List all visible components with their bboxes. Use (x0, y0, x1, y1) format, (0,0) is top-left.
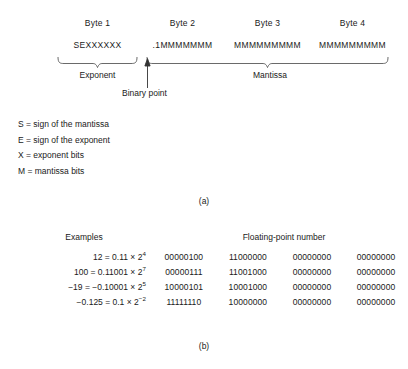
byte-value-3: 00000000 (280, 282, 344, 292)
byte-header-row: Byte 1 Byte 2 Byte 3 Byte 4 (55, 18, 395, 28)
example-expression: 100 = 0.11001 × 27 (0, 267, 152, 277)
byte-field-1: SEXXXXXX (55, 40, 140, 50)
byte-value-3: 00000000 (280, 252, 344, 262)
byte-value-1: 00000100 (152, 252, 216, 262)
brace-overlay (0, 0, 408, 215)
exponent-superscript: 7 (142, 265, 145, 272)
example-expression: −19 = −0.10001 × 25 (0, 282, 152, 292)
byte-header-2: Byte 2 (140, 18, 225, 28)
table-body: 12 = 0.11 × 2400000100110000000000000000… (0, 252, 408, 312)
mantissa-label: Mantissa (145, 70, 395, 80)
table-row: 12 = 0.11 × 2400000100110000000000000000… (0, 252, 408, 267)
byte-value-4: 00000000 (344, 267, 408, 277)
byte-value-2: 10001000 (216, 282, 280, 292)
legend-item-m: M = mantissa bits (18, 164, 110, 180)
byte-header-4: Byte 4 (310, 18, 395, 28)
mantissa-brace-icon (147, 57, 388, 68)
caption-b: (b) (0, 341, 408, 351)
byte-field-2: .1MMMMMMM (140, 40, 225, 50)
example-expression: 12 = 0.11 × 24 (0, 252, 152, 262)
byte-value-4: 00000000 (344, 282, 408, 292)
figure-b-examples-table: Examples Floating-point number 12 = 0.11… (0, 228, 408, 348)
byte-field-row: SEXXXXXX .1MMMMMMM MMMMMMMMM MMMMMMMMM (55, 40, 395, 50)
byte-value-4: 00000000 (344, 252, 408, 262)
byte-value-1: 10000101 (152, 282, 216, 292)
table-header-row: Examples Floating-point number (0, 232, 408, 246)
table-row: −19 = −0.10001 × 25100001011000100000000… (0, 282, 408, 297)
byte-value-2: 11001000 (216, 267, 280, 277)
legend-item-s: S = sign of the mantissa (18, 117, 110, 133)
exponent-superscript: 5 (142, 280, 145, 287)
column-header-floating-point-number: Floating-point number (168, 232, 400, 242)
byte-field-3: MMMMMMMMM (225, 40, 310, 50)
figure-a-format-diagram: Byte 1 Byte 2 Byte 3 Byte 4 SEXXXXXX .1M… (0, 0, 408, 215)
table-row: −0.125 = 0.1 × 2−21111111010000000000000… (0, 297, 408, 312)
byte-value-3: 00000000 (280, 267, 344, 277)
byte-field-4: MMMMMMMMM (310, 40, 395, 50)
byte-value-2: 11000000 (216, 252, 280, 262)
legend-item-e: E = sign of the exponent (18, 133, 110, 149)
table-row: 100 = 0.11001 × 270000011111001000000000… (0, 267, 408, 282)
byte-header-3: Byte 3 (225, 18, 310, 28)
byte-value-1: 11111110 (152, 297, 216, 307)
caption-a: (a) (0, 196, 408, 206)
byte-value-1: 00000111 (152, 267, 216, 277)
byte-header-1: Byte 1 (55, 18, 140, 28)
exponent-brace-icon (58, 57, 137, 68)
byte-value-3: 00000000 (280, 297, 344, 307)
exponent-superscript: −2 (139, 295, 146, 302)
exponent-superscript: 4 (142, 250, 145, 257)
legend-item-x: X = exponent bits (18, 148, 110, 164)
binary-point-label: Binary point (122, 88, 167, 98)
symbol-legend: S = sign of the mantissa E = sign of the… (18, 117, 110, 179)
byte-value-2: 10000000 (216, 297, 280, 307)
example-expression: −0.125 = 0.1 × 2−2 (0, 297, 152, 307)
column-header-examples: Examples (14, 232, 154, 242)
exponent-label: Exponent (55, 70, 140, 80)
byte-value-4: 00000000 (344, 297, 408, 307)
